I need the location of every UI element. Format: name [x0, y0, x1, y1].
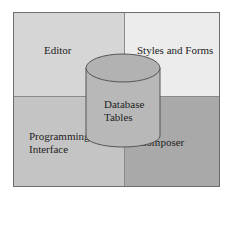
database-label: Database — [104, 98, 144, 111]
tables-label: Tables — [104, 111, 133, 124]
